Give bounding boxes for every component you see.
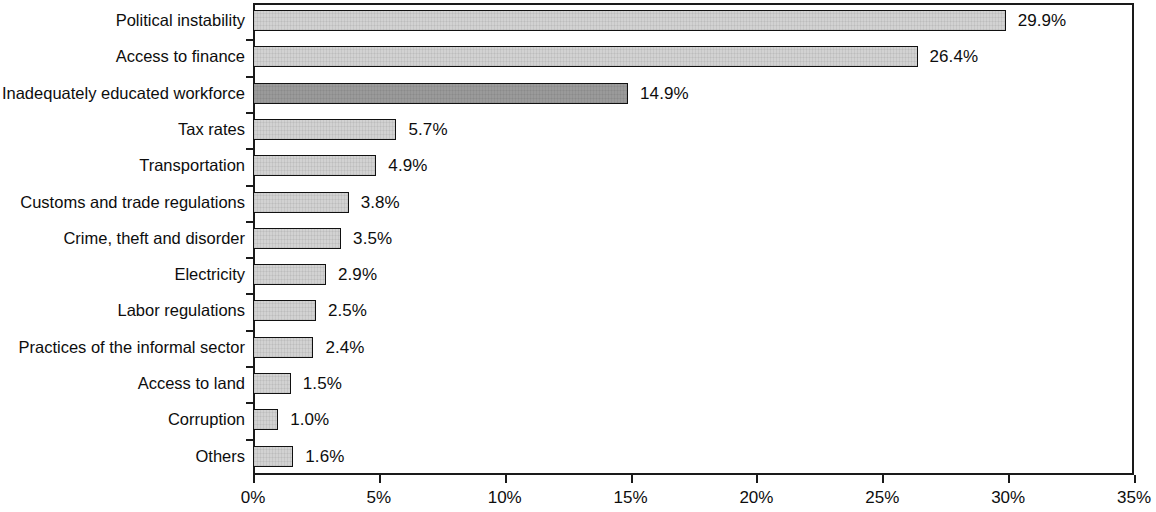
value-axis-tick xyxy=(505,475,507,483)
category-label: Electricity xyxy=(0,264,245,285)
value-axis-tick xyxy=(882,475,884,483)
bar-row: 2.5% xyxy=(253,293,1134,329)
category-label: Corruption xyxy=(0,409,245,430)
category-tick xyxy=(246,257,253,259)
category-label: Customs and trade regulations xyxy=(0,192,245,213)
bar-value-label: 4.9% xyxy=(388,155,427,176)
bars-layer: 29.9%26.4%14.9%5.7%4.9%3.8%3.5%2.9%2.5%2… xyxy=(253,3,1134,475)
bar-value-label: 14.9% xyxy=(640,83,689,104)
bar-value-label: 5.7% xyxy=(408,119,447,140)
bar-row: 5.7% xyxy=(253,112,1134,148)
category-axis-labels: Political instabilityAccess to financeIn… xyxy=(0,3,245,475)
bar-row: 2.9% xyxy=(253,257,1134,293)
bar xyxy=(253,337,313,358)
category-label: Labor regulations xyxy=(0,300,245,321)
bar-value-label: 2.4% xyxy=(325,337,364,358)
value-axis-tick xyxy=(631,475,633,483)
bar xyxy=(253,155,376,176)
bar-value-label: 2.5% xyxy=(328,300,367,321)
category-label: Practices of the informal sector xyxy=(0,337,245,358)
category-tick xyxy=(246,76,253,78)
bar-row: 1.0% xyxy=(253,402,1134,438)
bar xyxy=(253,192,349,213)
category-tick xyxy=(246,39,253,41)
bar xyxy=(253,228,341,249)
value-axis-tick xyxy=(379,475,381,483)
value-axis-tick xyxy=(756,475,758,483)
value-axis-tick-label: 5% xyxy=(367,487,392,509)
bar-row: 4.9% xyxy=(253,148,1134,184)
value-axis: 0%5%10%15%20%25%30%35% xyxy=(253,475,1134,512)
bar xyxy=(253,119,396,140)
bar-row: 14.9% xyxy=(253,76,1134,112)
bar xyxy=(253,83,628,104)
value-axis-tick xyxy=(1008,475,1010,483)
category-tick xyxy=(246,148,253,150)
bar-row: 1.6% xyxy=(253,439,1134,475)
bar-chart: Political instabilityAccess to financeIn… xyxy=(0,0,1156,512)
category-tick xyxy=(246,402,253,404)
category-label: Tax rates xyxy=(0,119,245,140)
value-axis-tick-label: 15% xyxy=(614,487,648,509)
category-label: Political instability xyxy=(0,10,245,31)
category-tick xyxy=(246,439,253,441)
value-axis-tick-label: 25% xyxy=(865,487,899,509)
value-axis-tick-label: 20% xyxy=(739,487,773,509)
category-tick xyxy=(246,112,253,114)
category-label: Crime, theft and disorder xyxy=(0,228,245,249)
category-label: Access to land xyxy=(0,373,245,394)
bar xyxy=(253,373,291,394)
bar xyxy=(253,409,278,430)
category-tick xyxy=(246,185,253,187)
bar xyxy=(253,10,1006,31)
bar xyxy=(253,46,918,67)
value-axis-tick-label: 0% xyxy=(241,487,266,509)
value-axis-tick-label: 30% xyxy=(991,487,1025,509)
bar-value-label: 29.9% xyxy=(1018,10,1067,31)
value-axis-tick-label: 35% xyxy=(1117,487,1151,509)
bar xyxy=(253,446,293,467)
value-axis-tick xyxy=(1134,475,1136,483)
value-axis-tick xyxy=(253,475,255,483)
value-axis-tick-label: 10% xyxy=(488,487,522,509)
category-label: Inadequately educated workforce xyxy=(0,83,245,104)
bar-value-label: 2.9% xyxy=(338,264,377,285)
category-tick xyxy=(246,293,253,295)
bar-row: 29.9% xyxy=(253,3,1134,39)
bar-value-label: 1.0% xyxy=(290,409,329,430)
bar-row: 1.5% xyxy=(253,366,1134,402)
bar-row: 26.4% xyxy=(253,39,1134,75)
category-tick xyxy=(246,330,253,332)
bar xyxy=(253,300,316,321)
bar-row: 2.4% xyxy=(253,330,1134,366)
bar-value-label: 1.6% xyxy=(305,446,344,467)
bar-value-label: 1.5% xyxy=(303,373,342,394)
category-label: Transportation xyxy=(0,155,245,176)
category-tick xyxy=(246,221,253,223)
category-label: Others xyxy=(0,446,245,467)
category-tick xyxy=(246,366,253,368)
bar-row: 3.5% xyxy=(253,221,1134,257)
bar-value-label: 26.4% xyxy=(930,46,979,67)
bar-row: 3.8% xyxy=(253,185,1134,221)
bar-value-label: 3.8% xyxy=(361,192,400,213)
category-label: Access to finance xyxy=(0,46,245,67)
bar xyxy=(253,264,326,285)
bar-value-label: 3.5% xyxy=(353,228,392,249)
